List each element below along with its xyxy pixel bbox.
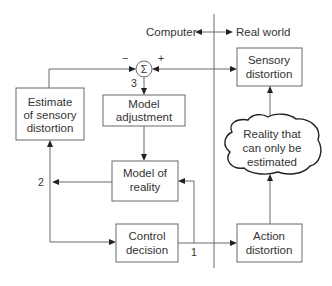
plus-sign: + (158, 52, 164, 64)
sensory-distortion-box: Sensory distortion (237, 48, 302, 86)
cloud-line-3: estimated (247, 156, 297, 168)
action-distortion-line-1: Action (253, 230, 285, 242)
cloud-line-1: Reality that (243, 128, 301, 140)
estimate-line-2: of sensory (23, 109, 76, 121)
model-of-reality-line-1: Model of (123, 167, 168, 179)
feedback-loop-diagram: Computer Real world Σ − + 3 Estimate of … (0, 0, 332, 286)
path-label-1: 1 (191, 246, 197, 258)
arrowhead-to-sensory-up-icon (267, 86, 273, 93)
arrowhead-to-sensory-icon (230, 66, 237, 72)
arrowhead-to-adjustment-icon (141, 88, 147, 95)
arrowhead-plus-input-icon (152, 66, 159, 72)
header-arrow-right-icon (226, 29, 233, 35)
arrowhead-to-action-icon (230, 240, 237, 246)
sensory-distortion-line-1: Sensory (248, 54, 290, 66)
real-world-label: Real world (236, 26, 290, 38)
sensory-distortion-line-2: distortion (246, 68, 293, 80)
control-to-estimate-line (50, 146, 111, 242)
arrowhead-to-estimate-icon (47, 140, 53, 147)
sigma-symbol: Σ (141, 63, 148, 75)
cloud-line-2: can only be (243, 142, 302, 154)
model-of-reality-line-2: reality (130, 181, 161, 193)
action-distortion-box: Action distortion (237, 224, 302, 262)
action-distortion-line-2: distortion (246, 244, 293, 256)
path-label-2: 2 (38, 176, 44, 188)
control-decision-box: Control decision (116, 224, 178, 262)
arrowhead-branch-to-model-icon (178, 178, 185, 184)
arrowhead-to-cloud-icon (267, 174, 273, 181)
arrowhead-to-model-icon (141, 154, 147, 161)
estimate-line-1: Estimate (28, 96, 73, 108)
branch-to-model-line (183, 181, 194, 243)
model-of-reality-box: Model of reality (112, 161, 178, 201)
control-decision-line-1: Control (128, 230, 165, 242)
estimate-to-sum-line (49, 69, 130, 88)
reality-cloud: Reality that can only be estimated (225, 114, 321, 174)
estimate-line-3: distortion (27, 122, 74, 134)
minus-sign: − (122, 52, 128, 64)
path-label-3: 3 (131, 77, 137, 89)
estimate-sensory-distortion-box: Estimate of sensory distortion (16, 88, 84, 140)
model-adjustment-box: Model adjustment (103, 95, 185, 126)
arrowhead-path2-icon (52, 179, 59, 185)
control-decision-line-2: decision (126, 244, 168, 256)
arrowhead-to-control-icon (109, 239, 116, 245)
model-adjustment-line-1: Model (128, 98, 159, 110)
summing-junction: Σ (136, 61, 152, 77)
arrowhead-minus-input-icon (129, 66, 136, 72)
computer-label: Computer (146, 26, 197, 38)
model-adjustment-line-2: adjustment (116, 111, 173, 123)
